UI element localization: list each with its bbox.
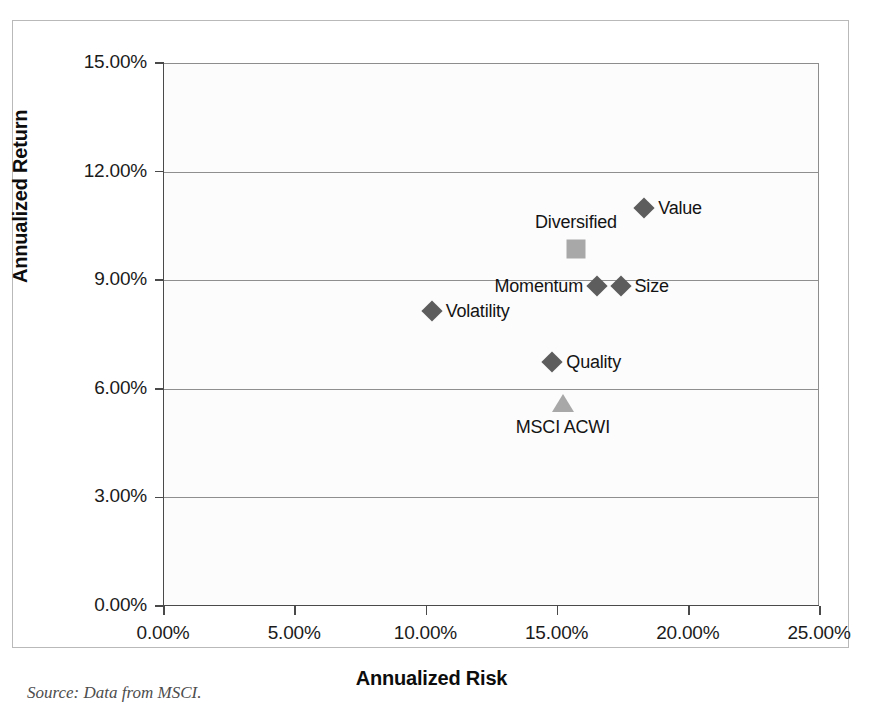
chart-frame: Annualized Return ValueDiversifiedSizeMo…: [12, 20, 849, 648]
gridline-horizontal: [164, 497, 819, 498]
x-axis-tick: [557, 606, 559, 615]
y-axis-tick-label: 12.00%: [84, 160, 147, 182]
y-axis-tick: [155, 497, 164, 499]
data-point-label: MSCI ACWI: [516, 417, 610, 438]
source-note: Source: Data from MSCI.: [27, 683, 201, 703]
data-point-label: Momentum: [495, 275, 583, 296]
x-axis-tick: [819, 606, 821, 615]
y-axis-tick-label: 0.00%: [94, 594, 147, 616]
x-axis-tick-label: 25.00%: [787, 622, 850, 644]
x-axis-tick: [426, 606, 428, 615]
x-axis-tick-label: 20.00%: [656, 622, 719, 644]
y-axis-tick-label: 3.00%: [94, 485, 147, 507]
x-axis-tick: [163, 606, 165, 615]
y-axis-tick: [155, 388, 164, 390]
data-point-marker: [566, 240, 585, 259]
data-point-label: Quality: [566, 351, 621, 372]
data-point-label: Diversified: [535, 212, 617, 233]
y-axis-tick-label: 9.00%: [94, 268, 147, 290]
data-point-marker: [542, 351, 563, 372]
data-point-label: Value: [658, 197, 702, 218]
x-axis-tick: [294, 606, 296, 615]
data-point-label: Volatility: [446, 300, 510, 321]
gridline-horizontal: [164, 280, 819, 281]
x-axis-tick-label: 5.00%: [268, 622, 321, 644]
x-axis-tick-label: 0.00%: [137, 622, 190, 644]
x-axis-tick-label: 15.00%: [525, 622, 588, 644]
data-point-marker: [634, 197, 655, 218]
y-axis-tick-label: 15.00%: [84, 51, 147, 73]
gridline-horizontal: [164, 389, 819, 390]
y-axis-tick: [155, 171, 164, 173]
y-axis-tick: [155, 279, 164, 281]
y-axis-tick-label: 6.00%: [94, 377, 147, 399]
plot-area: ValueDiversifiedSizeMomentumVolatilityQu…: [163, 63, 819, 606]
data-point-marker: [586, 275, 607, 296]
x-axis-tick-label: 10.00%: [394, 622, 457, 644]
data-point-marker: [421, 300, 442, 321]
x-axis-tick: [688, 606, 690, 615]
y-axis-tick: [155, 62, 164, 64]
gridline-horizontal: [164, 172, 819, 173]
data-point-marker: [610, 275, 631, 296]
data-point-marker: [552, 394, 574, 412]
y-axis-title: Annualized Return: [9, 110, 32, 283]
data-point-label: Size: [635, 275, 669, 296]
